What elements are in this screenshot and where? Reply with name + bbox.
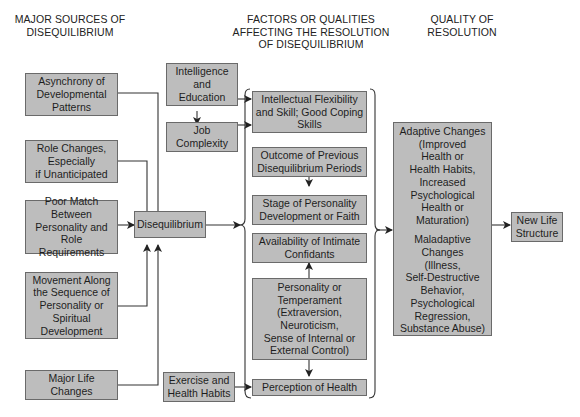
source-role-changes: Role Changes, Especially if Unanticipate… xyxy=(25,140,118,183)
exercise-label: Exercise and Health Habits xyxy=(167,374,230,399)
source-movement-along-label: Movement Along the Sequence of Personali… xyxy=(32,274,110,338)
source-poor-match-label: Poor Match Between Personality and Role … xyxy=(28,195,115,259)
new-life-structure-box: New Life Structure xyxy=(511,212,563,242)
source-major-life-changes: Major Life Changes xyxy=(25,370,118,400)
new-life-structure-label: New Life Structure xyxy=(516,214,559,239)
factor-personality-temperament: Personality or Temperament (Extraversion… xyxy=(252,278,367,360)
source-major-life-changes-label: Major Life Changes xyxy=(48,372,94,397)
factor-job-complexity: Job Complexity xyxy=(166,122,238,152)
personality-temperament-label: Personality or Temperament (Extraversion… xyxy=(264,281,356,357)
stage-of-personality-label: Stage of Personality Development or Fait… xyxy=(259,197,359,222)
factor-perception-of-health: Perception of Health xyxy=(252,379,367,396)
factor-outcome-previous: Outcome of Previous Disequilibrium Perio… xyxy=(252,147,367,177)
adaptive-changes-label: Adaptive Changes (Improved Health or Hea… xyxy=(396,125,489,227)
disequilibrium-box: Disequilibrium xyxy=(134,211,206,238)
factor-availability-confidants: Availability of Intimate Confidants xyxy=(252,233,367,263)
disequilibrium-label: Disequilibrium xyxy=(137,218,203,231)
source-asynchrony-label: Asynchrony of Developmental Patterns xyxy=(36,75,106,113)
availability-confidants-label: Availability of Intimate Confidants xyxy=(259,235,360,260)
factor-intellectual-flexibility: Intellectual Flexibility and Skill; Good… xyxy=(252,91,367,133)
job-complexity-label: Job Complexity xyxy=(176,124,228,149)
factor-exercise-health-habits: Exercise and Health Habits xyxy=(163,372,235,402)
source-movement-along: Movement Along the Sequence of Personali… xyxy=(25,272,118,339)
intellectual-flexibility-label: Intellectual Flexibility and Skill; Good… xyxy=(256,93,363,131)
maladaptive-changes-label: Maladaptive Changes (Illness, Self-Destr… xyxy=(400,233,485,335)
perception-of-health-label: Perception of Health xyxy=(262,381,357,394)
factor-intelligence-education: Intelligence and Education xyxy=(166,63,238,106)
source-poor-match: Poor Match Between Personality and Role … xyxy=(25,200,118,254)
resolution-box: Adaptive Changes (Improved Health or Hea… xyxy=(393,122,492,336)
outcome-previous-label: Outcome of Previous Disequilibrium Perio… xyxy=(257,149,361,174)
intelligence-label: Intelligence and Education xyxy=(175,65,228,103)
source-asynchrony: Asynchrony of Developmental Patterns xyxy=(25,73,118,116)
source-role-changes-label: Role Changes, Especially if Unanticipate… xyxy=(35,142,107,180)
factor-stage-of-personality: Stage of Personality Development or Fait… xyxy=(252,195,367,225)
